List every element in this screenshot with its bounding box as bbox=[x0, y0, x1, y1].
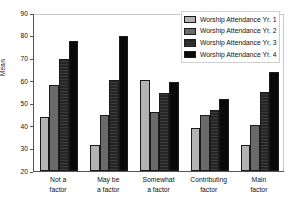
y-tick-mark bbox=[30, 14, 33, 15]
legend-item[interactable]: Worship Attendance Yr. 4 bbox=[184, 49, 276, 61]
x-axis-label: Somewhata factor bbox=[133, 175, 183, 194]
y-tick-mark bbox=[30, 81, 33, 82]
bar bbox=[260, 92, 270, 171]
bar bbox=[69, 41, 79, 171]
bar bbox=[119, 36, 129, 171]
bar bbox=[191, 128, 201, 171]
y-axis-title: Mean bbox=[0, 38, 6, 98]
bar bbox=[250, 125, 260, 171]
y-tick-mark bbox=[30, 59, 33, 60]
legend-swatch bbox=[184, 28, 196, 35]
legend-item[interactable]: Worship Attendance Yr. 2 bbox=[184, 26, 276, 38]
x-axis-label: Mainfactor bbox=[234, 175, 284, 194]
bar bbox=[49, 85, 59, 171]
legend-item[interactable]: Worship Attendance Yr. 1 bbox=[184, 14, 276, 26]
bar bbox=[159, 93, 169, 171]
bar bbox=[241, 145, 251, 171]
bar-group bbox=[40, 14, 78, 171]
x-axis-labels: Not afactorMay bea factorSomewhata facto… bbox=[33, 175, 284, 205]
x-axis-label-line: Not a bbox=[33, 175, 83, 185]
y-tick-label: 30 bbox=[20, 145, 27, 153]
y-tick-mark bbox=[30, 104, 33, 105]
bar bbox=[150, 112, 160, 171]
chart-legend: Worship Attendance Yr. 1Worship Attendan… bbox=[181, 11, 280, 63]
x-axis-label-line: Somewhat bbox=[133, 175, 183, 185]
y-tick-label: 50 bbox=[20, 100, 27, 108]
y-tick-label: 70 bbox=[20, 55, 27, 63]
y-tick-mark bbox=[30, 172, 33, 173]
bar bbox=[40, 117, 50, 171]
legend-swatch bbox=[184, 39, 196, 46]
bar bbox=[90, 145, 100, 171]
y-tick-label: 60 bbox=[20, 78, 27, 86]
bar bbox=[59, 59, 69, 171]
x-axis-label-line: factor bbox=[234, 185, 284, 195]
y-tick-label: 40 bbox=[20, 123, 27, 131]
bar bbox=[269, 72, 279, 171]
bar-group bbox=[140, 14, 178, 171]
bar-group bbox=[90, 14, 128, 171]
x-axis-label-line: factor bbox=[33, 185, 83, 195]
legend-label: Worship Attendance Yr. 1 bbox=[200, 16, 276, 24]
bar bbox=[109, 80, 119, 171]
y-tick-label: 90 bbox=[20, 10, 27, 18]
x-axis-label: Not afactor bbox=[33, 175, 83, 194]
x-axis-label-line: a factor bbox=[133, 185, 183, 195]
legend-swatch bbox=[184, 16, 196, 23]
x-axis-label: Contributingfactor bbox=[184, 175, 234, 194]
bar bbox=[100, 115, 110, 171]
bar-chart: 2030405060708090 Mean Not afactorMay bea… bbox=[0, 0, 290, 207]
x-axis-label-line: May be bbox=[83, 175, 133, 185]
legend-label: Worship Attendance Yr. 2 bbox=[200, 27, 276, 35]
legend-label: Worship Attendance Yr. 4 bbox=[200, 51, 276, 59]
bar bbox=[219, 99, 229, 171]
legend-item[interactable]: Worship Attendance Yr. 3 bbox=[184, 37, 276, 49]
bar bbox=[140, 80, 150, 171]
y-tick-label: 80 bbox=[20, 32, 27, 40]
bar bbox=[169, 82, 179, 171]
y-tick-mark bbox=[30, 126, 33, 127]
x-axis-label-line: factor bbox=[184, 185, 234, 195]
x-axis-label-line: Main bbox=[234, 175, 284, 185]
bar bbox=[210, 110, 220, 171]
y-tick-mark bbox=[30, 149, 33, 150]
x-axis-label-line: Contributing bbox=[184, 175, 234, 185]
x-axis-label: May bea factor bbox=[83, 175, 133, 194]
bar bbox=[200, 115, 210, 171]
legend-swatch bbox=[184, 51, 196, 58]
legend-label: Worship Attendance Yr. 3 bbox=[200, 39, 276, 47]
y-tick-label: 20 bbox=[20, 168, 27, 176]
x-axis-label-line: a factor bbox=[83, 185, 133, 195]
y-tick-mark bbox=[30, 36, 33, 37]
